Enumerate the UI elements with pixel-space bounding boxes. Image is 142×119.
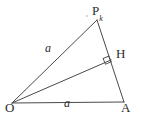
side-label-op: a bbox=[45, 42, 51, 54]
image-artifact-speck bbox=[86, 15, 88, 17]
vertex-label-o: O bbox=[5, 101, 14, 114]
vertex-label-p: Pk bbox=[92, 4, 103, 21]
vertex-label-h: H bbox=[116, 47, 125, 60]
vertex-label-p-subscript: k bbox=[99, 14, 103, 23]
geometry-figure: Pk H O A a a bbox=[0, 0, 142, 119]
vertex-label-a: A bbox=[121, 101, 130, 114]
segment-O-P bbox=[12, 20, 97, 103]
side-label-oa: a bbox=[64, 97, 70, 109]
segment-O-H bbox=[12, 60, 111, 103]
